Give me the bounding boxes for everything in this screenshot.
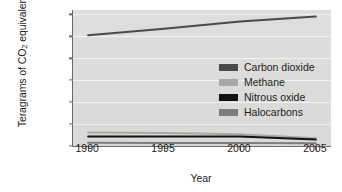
- y-axis-title: Teragrams of CO2 equivalents: [16, 0, 29, 130]
- legend-swatch: [219, 79, 238, 86]
- legend-item: Halocarbons: [219, 105, 334, 120]
- legend-label: Carbon dioxide: [244, 62, 315, 73]
- greenhouse-gas-line-chart: Teragrams of CO2 equivalents 01,0002,000…: [0, 0, 342, 192]
- legend-item: Nitrous oxide: [219, 90, 334, 105]
- y-axis-title-prefix: Teragrams of CO: [16, 49, 28, 127]
- series-line: [88, 17, 316, 36]
- legend-item: Methane: [219, 75, 334, 90]
- legend: Carbon dioxideMethaneNitrous oxideHaloca…: [219, 60, 334, 120]
- legend-label: Halocarbons: [244, 107, 303, 118]
- legend-label: Nitrous oxide: [244, 92, 305, 103]
- x-tick-label: 1995: [151, 142, 174, 154]
- y-axis-title-suffix: equivalents: [16, 0, 28, 45]
- x-tick-label: 1990: [75, 142, 98, 154]
- legend-item: Carbon dioxide: [219, 60, 334, 75]
- legend-swatch: [219, 64, 238, 71]
- legend-label: Methane: [244, 77, 285, 88]
- legend-swatch: [219, 109, 238, 116]
- x-tick-label: 2000: [227, 142, 250, 154]
- x-tick-label: 2005: [303, 142, 326, 154]
- x-axis-title: Year: [72, 172, 330, 184]
- plot-area: Carbon dioxideMethaneNitrous oxideHaloca…: [72, 10, 331, 147]
- legend-swatch: [219, 94, 238, 101]
- y-axis-title-subscript: 2: [20, 45, 29, 49]
